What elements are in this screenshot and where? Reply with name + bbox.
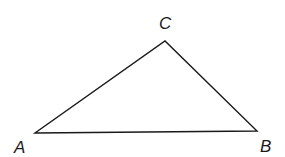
vertex-label-c: C: [159, 14, 172, 33]
vertex-label-a: A: [13, 138, 25, 157]
triangle-abc: [35, 41, 257, 133]
vertex-label-b: B: [260, 137, 271, 156]
triangle-diagram: A B C: [0, 0, 285, 157]
